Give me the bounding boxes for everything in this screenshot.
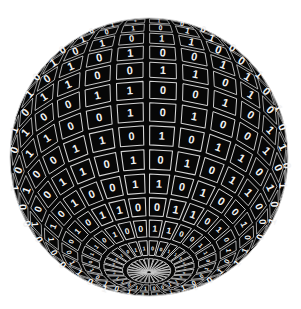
sphere-cell: [119, 126, 144, 147]
sphere-cell: [149, 19, 169, 24]
sphere-cell: [116, 62, 143, 79]
sphere-cell: [121, 150, 144, 171]
sphere-cell: [149, 174, 169, 194]
sphere-cell: [179, 128, 205, 151]
sphere-cell: [150, 24, 173, 32]
sphere-cell: [121, 24, 144, 33]
sphere-cell: [94, 152, 118, 175]
sphere-cell: [124, 174, 145, 194]
sphere-cell: [175, 152, 199, 175]
sphere-cell: [117, 46, 143, 61]
sphere-cell: [117, 103, 143, 123]
sphere-cell: [150, 103, 176, 123]
binary-sphere-graphic: 0010100110101010011010101011001010100101…: [0, 0, 301, 309]
sphere-cell: [150, 46, 176, 60]
figure-canvas: 0010100110101010011010101011001010100101…: [0, 0, 301, 309]
sphere-cell: [150, 33, 175, 44]
sphere-cell: [150, 62, 177, 79]
sphere-cell: [149, 198, 166, 217]
sphere-cell: [150, 126, 175, 146]
sphere-cell: [129, 198, 146, 217]
sphere-cell: [116, 81, 143, 100]
sphere-cell: [150, 81, 177, 99]
sphere-cell: [119, 33, 144, 45]
sphere-cell: [150, 150, 173, 171]
